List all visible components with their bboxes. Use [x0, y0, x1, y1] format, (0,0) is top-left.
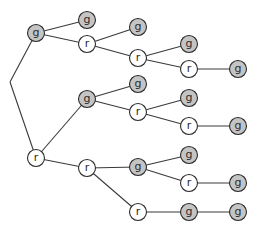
node-label: g	[186, 37, 193, 50]
tree-node-g: g	[28, 25, 45, 42]
tree-node-g: g	[230, 175, 247, 192]
tree-edge	[87, 168, 138, 212]
tree-node-g: g	[230, 61, 247, 78]
tree-node-r: r	[28, 150, 45, 167]
tree-node-r: r	[79, 36, 96, 53]
node-label: g	[33, 26, 40, 39]
tree-node-r: r	[130, 104, 147, 121]
tree-node-g: g	[230, 118, 247, 135]
node-label: g	[84, 92, 91, 105]
node-label: r	[136, 51, 141, 64]
node-label: g	[135, 77, 142, 90]
tree-node-g: g	[79, 91, 96, 108]
tree-node-r: r	[181, 61, 198, 78]
tree-edge	[10, 82, 36, 158]
tree-node-g: g	[181, 36, 198, 53]
node-label: r	[187, 62, 192, 75]
tree-node-r: r	[130, 204, 147, 221]
tree-edges	[10, 20, 238, 212]
node-label: r	[136, 205, 141, 218]
tree-node-g: g	[181, 90, 198, 107]
node-label: g	[186, 148, 193, 161]
node-label: r	[187, 119, 192, 132]
tree-node-r: r	[130, 50, 147, 67]
tree-edge	[36, 99, 87, 158]
node-label: r	[187, 176, 192, 189]
node-label: g	[186, 91, 193, 104]
tree-node-g: g	[181, 147, 198, 164]
tree-node-g: g	[130, 76, 147, 93]
tree-node-g: g	[79, 12, 96, 29]
node-label: g	[235, 119, 242, 132]
tree-node-g: g	[130, 159, 147, 176]
tree-node-g: g	[130, 19, 147, 36]
node-label: r	[85, 161, 90, 174]
tree-node-g: g	[181, 204, 198, 221]
tree-node-g: g	[230, 204, 247, 221]
tree-nodes: ggrgrgrgrggrgrgrggrgrgg	[28, 12, 247, 221]
node-label: g	[135, 20, 142, 33]
node-label: r	[34, 151, 39, 164]
tree-node-r: r	[181, 175, 198, 192]
node-label: g	[235, 176, 242, 189]
node-label: r	[85, 37, 90, 50]
node-label: g	[135, 160, 142, 173]
node-label: g	[186, 205, 193, 218]
tree-node-r: r	[181, 118, 198, 135]
node-label: g	[235, 205, 242, 218]
tree-node-r: r	[79, 160, 96, 177]
tree-diagram: ggrgrgrgrggrgrgrggrgrgg	[0, 0, 264, 244]
node-label: g	[84, 13, 91, 26]
node-label: g	[235, 62, 242, 75]
node-label: r	[136, 105, 141, 118]
